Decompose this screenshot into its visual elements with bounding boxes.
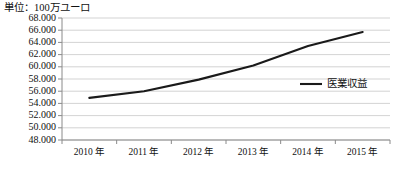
x-tick-label: 2012 年 (171, 147, 226, 158)
x-axis-ticks (62, 140, 390, 144)
data-series-line (89, 32, 362, 98)
x-tick-label: 2010 年 (62, 147, 117, 158)
y-tick-label: 52.000 (8, 110, 56, 120)
x-tick-label: 2013 年 (226, 147, 281, 158)
y-tick-label: 48.000 (8, 135, 56, 145)
x-tick-label: 2014 年 (281, 147, 336, 158)
y-tick-label: 60.000 (8, 61, 56, 71)
y-tick-label: 50.000 (8, 122, 56, 132)
y-tick-label: 62.000 (8, 49, 56, 59)
y-tick-label: 58.000 (8, 74, 56, 84)
line-chart: 単位：100万ユーロ 48.00050.00052.00054.00056.00… (0, 0, 398, 175)
y-tick-label: 68.000 (8, 13, 56, 23)
y-tick-label: 66.000 (8, 25, 56, 35)
x-tick-label: 2015 年 (335, 147, 390, 158)
y-tick-label: 54.000 (8, 98, 56, 108)
y-axis-ticks (58, 18, 62, 140)
y-tick-label: 64.000 (8, 37, 56, 47)
y-tick-label: 56.000 (8, 86, 56, 96)
legend-entry-label: 医業収益 (327, 78, 367, 90)
x-tick-label: 2011 年 (117, 147, 172, 158)
